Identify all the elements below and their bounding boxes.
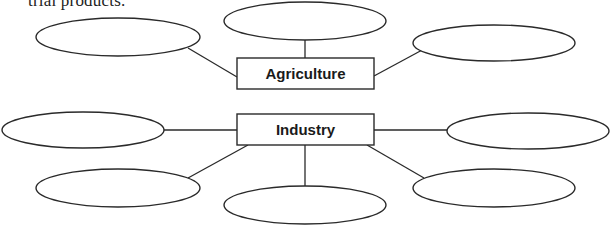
- connector-agri-top-right: [374, 49, 424, 76]
- concept-web-diagram: Agriculture Industry: [0, 0, 612, 229]
- connector-agri-top-left: [188, 48, 237, 77]
- industry-label: Industry: [276, 121, 336, 138]
- oval-ind-left[interactable]: [2, 112, 164, 148]
- oval-ind-bottom-right[interactable]: [413, 169, 575, 207]
- connector-ind-bottom-left: [188, 145, 248, 178]
- oval-ind-bottom-center[interactable]: [224, 186, 386, 224]
- oval-agri-top-center[interactable]: [224, 2, 386, 40]
- connector-ind-bottom-right: [367, 145, 424, 178]
- oval-ind-right[interactable]: [447, 113, 609, 149]
- oval-agri-top-right[interactable]: [413, 25, 575, 61]
- oval-agri-top-left[interactable]: [36, 18, 200, 56]
- oval-ind-bottom-left[interactable]: [36, 169, 200, 207]
- agriculture-label: Agriculture: [265, 65, 345, 82]
